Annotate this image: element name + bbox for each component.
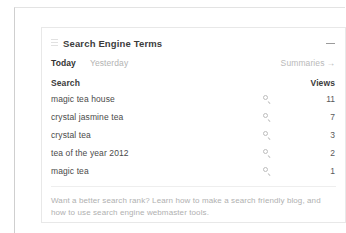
column-header-icon <box>263 75 299 90</box>
search-engine-terms-card: Search Engine Terms Today Yesterday Summ… <box>41 27 346 223</box>
card-title: Search Engine Terms <box>63 38 162 49</box>
search-magnifier-icon[interactable] <box>263 131 272 140</box>
views-count-cell: 3 <box>299 126 345 144</box>
views-count-cell: 7 <box>299 108 345 126</box>
arrow-right-icon: → <box>327 58 336 68</box>
search-magnifier-cell <box>263 162 299 180</box>
table-row: magic tea 1 <box>42 162 345 180</box>
table-row: tea of the year 2012 2 <box>42 144 345 162</box>
column-header-views: Views <box>299 75 345 90</box>
search-term-cell: crystal jasmine tea <box>42 108 263 126</box>
column-header-search: Search <box>42 75 263 90</box>
table-header-row: Search Views <box>42 75 345 90</box>
search-terms-table: Search Views magic tea house 11 crystal … <box>42 75 345 180</box>
tab-yesterday[interactable]: Yesterday <box>90 58 128 68</box>
card-header: Search Engine Terms <box>42 28 345 52</box>
search-magnifier-cell <box>263 144 299 162</box>
search-magnifier-cell <box>263 90 299 108</box>
views-count-cell: 2 <box>299 144 345 162</box>
minus-collapse-icon[interactable] <box>326 39 335 48</box>
table-row: magic tea house 11 <box>42 90 345 108</box>
summaries-link[interactable]: Summaries <box>281 58 325 68</box>
table-body: magic tea house 11 crystal jasmine tea 7… <box>42 90 345 180</box>
table-row: crystal tea 3 <box>42 126 345 144</box>
search-term-cell: tea of the year 2012 <box>42 144 263 162</box>
table-header: Search Views <box>42 75 345 90</box>
tab-today[interactable]: Today <box>51 58 76 68</box>
search-magnifier-icon[interactable] <box>263 113 272 122</box>
drag-handle-icon[interactable] <box>51 39 58 47</box>
page-frame: Search Engine Terms Today Yesterday Summ… <box>14 7 345 233</box>
search-magnifier-cell <box>263 108 299 126</box>
search-term-cell: magic tea <box>42 162 263 180</box>
tabs-row: Today Yesterday Summaries → <box>42 52 345 69</box>
search-magnifier-icon[interactable] <box>263 149 272 158</box>
search-magnifier-cell <box>263 126 299 144</box>
footer-help-text: Want a better search rank? Learn how to … <box>42 187 345 220</box>
search-term-cell: crystal tea <box>42 126 263 144</box>
search-term-cell: magic tea house <box>42 90 263 108</box>
search-magnifier-icon[interactable] <box>263 167 272 176</box>
table-row: crystal jasmine tea 7 <box>42 108 345 126</box>
views-count-cell: 11 <box>299 90 345 108</box>
views-count-cell: 1 <box>299 162 345 180</box>
search-magnifier-icon[interactable] <box>263 95 272 104</box>
